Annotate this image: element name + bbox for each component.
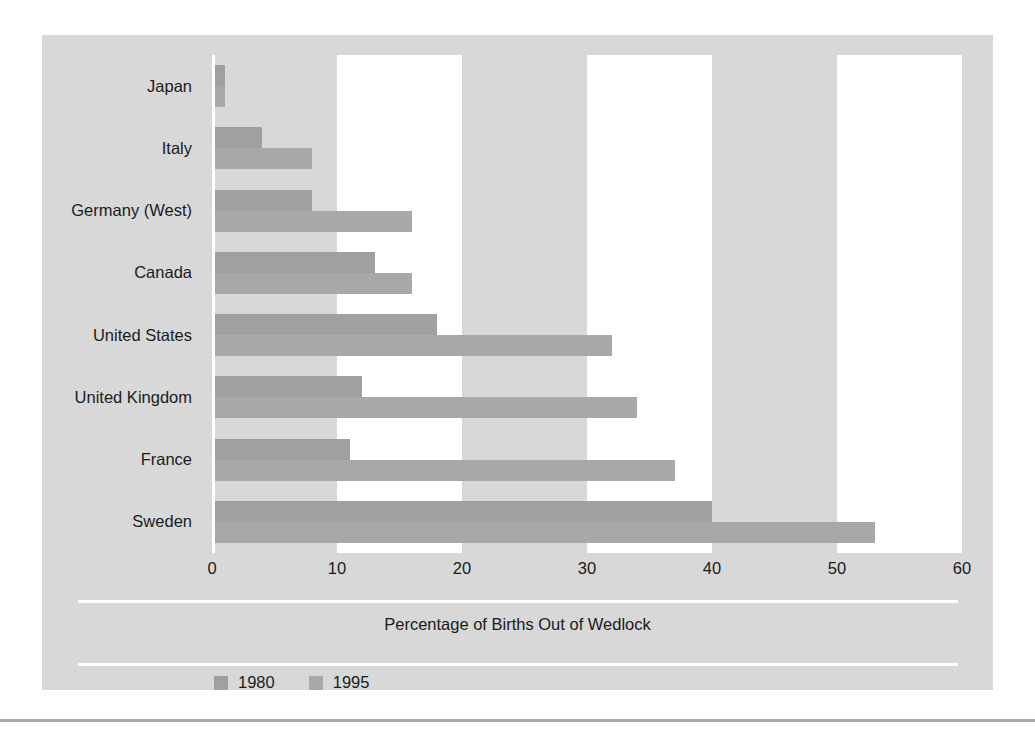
bar-1980 [212, 376, 362, 397]
bar-1995 [212, 460, 675, 481]
bar-1980 [212, 439, 350, 460]
legend-label: 1995 [333, 673, 370, 692]
bar-1995 [212, 335, 612, 356]
bar-group [212, 180, 962, 242]
bar-group [212, 117, 962, 179]
category-label: United States [42, 304, 202, 366]
x-axis-tick-labels: 0102030405060 [212, 559, 962, 585]
x-tick-label: 30 [578, 559, 596, 578]
bar-group [212, 242, 962, 304]
chart-figure: JapanItalyGermany (West)CanadaUnited Sta… [42, 35, 993, 690]
bar-group [212, 55, 962, 117]
category-label: United Kingdom [42, 366, 202, 428]
divider-below-axis-title [78, 663, 958, 666]
bar-1980 [212, 127, 262, 148]
legend-item-1980[interactable]: 1980 [214, 673, 275, 692]
bar-group [212, 366, 962, 428]
bar-1995 [212, 522, 875, 543]
x-tick-label: 10 [328, 559, 346, 578]
bar-1980 [212, 190, 312, 211]
y-axis-line [212, 55, 215, 553]
bar-1980 [212, 252, 375, 273]
legend-item-1995[interactable]: 1995 [309, 673, 370, 692]
page-bottom-rule [0, 719, 1035, 722]
bar-1995 [212, 273, 412, 294]
category-label: France [42, 429, 202, 491]
bar-1995 [212, 211, 412, 232]
bar-group [212, 304, 962, 366]
category-label: Sweden [42, 491, 202, 553]
plot-area [212, 55, 962, 553]
bar-1995 [212, 397, 637, 418]
bar-1980 [212, 314, 437, 335]
x-axis-title: Percentage of Births Out of Wedlock [42, 615, 993, 634]
category-label: Italy [42, 117, 202, 179]
legend-label: 1980 [238, 673, 275, 692]
category-label: Japan [42, 55, 202, 117]
category-label: Canada [42, 242, 202, 304]
bar-rows [212, 55, 962, 553]
bar-group [212, 429, 962, 491]
x-tick-label: 40 [703, 559, 721, 578]
bar-group [212, 491, 962, 553]
x-tick-label: 0 [207, 559, 216, 578]
bar-1980 [212, 501, 712, 522]
x-tick-label: 50 [828, 559, 846, 578]
divider-above-axis-title [78, 600, 958, 603]
bar-1995 [212, 148, 312, 169]
legend: 19801995 [214, 673, 369, 692]
category-label: Germany (West) [42, 180, 202, 242]
x-tick-label: 20 [453, 559, 471, 578]
category-axis-labels: JapanItalyGermany (West)CanadaUnited Sta… [42, 55, 202, 553]
legend-swatch-icon [214, 676, 228, 690]
legend-swatch-icon [309, 676, 323, 690]
x-tick-label: 60 [953, 559, 971, 578]
